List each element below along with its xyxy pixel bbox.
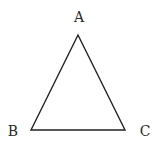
vertex-label-c: C xyxy=(140,123,151,139)
triangle-shape xyxy=(31,35,125,130)
triangle-diagram: A B C xyxy=(0,0,155,149)
vertex-label-a: A xyxy=(73,9,85,25)
vertex-label-b: B xyxy=(8,123,18,139)
